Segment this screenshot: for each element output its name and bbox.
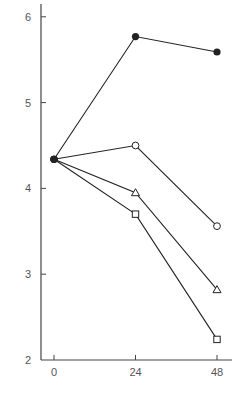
data-point-open-circle (132, 142, 139, 149)
x-tick-label: 0 (51, 366, 57, 378)
axes: 2345602448 (25, 4, 232, 378)
series-line (54, 159, 217, 339)
series-line (54, 37, 217, 160)
data-point-open-triangle (132, 189, 140, 196)
y-tick-label: 5 (25, 97, 31, 109)
y-tick-label: 6 (25, 11, 31, 23)
y-tick-label: 4 (25, 182, 31, 194)
figure-caption-truncated (50, 387, 230, 397)
x-tick-label: 48 (211, 366, 223, 378)
series-group (50, 33, 221, 343)
data-point-open-square (132, 211, 138, 217)
data-point-filled-circle (132, 33, 139, 40)
data-point-filled-circle (213, 48, 220, 55)
y-tick-label: 2 (25, 354, 31, 366)
data-point-filled-circle (50, 156, 57, 163)
y-tick-label: 3 (25, 268, 31, 280)
series-open-triangle (50, 156, 221, 293)
line-chart: 2345602448 (0, 0, 238, 397)
series-line (54, 159, 217, 289)
x-tick-label: 24 (129, 366, 141, 378)
data-point-open-square (214, 336, 220, 342)
data-point-open-circle (214, 223, 221, 230)
series-open-square (50, 156, 220, 343)
